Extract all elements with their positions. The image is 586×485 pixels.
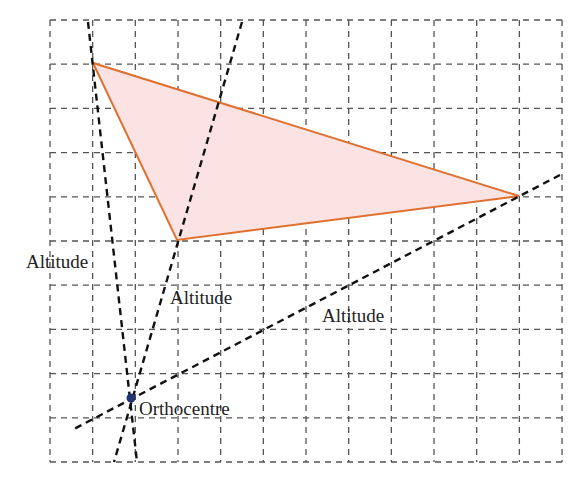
- altitude-label-right: Altitude: [322, 305, 384, 326]
- altitude-label-left: Altitude: [26, 251, 88, 272]
- orthocentre-label: Orthocentre: [139, 398, 230, 419]
- orthocentre-point: [127, 394, 136, 403]
- orthocentre-diagram: Altitude Altitude Altitude Orthocentre: [0, 0, 586, 485]
- altitude-label-middle: Altitude: [170, 287, 232, 308]
